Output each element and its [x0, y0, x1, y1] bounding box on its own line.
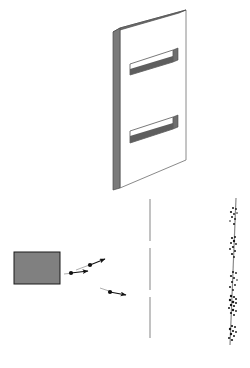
- particle-1-velocity-arrow: [71, 271, 88, 273]
- fringe-2-dot-2: [234, 236, 236, 238]
- fringe-5-dot-9: [231, 339, 233, 341]
- particle-trails: [64, 264, 112, 292]
- fringe-2-dot-3: [233, 240, 235, 242]
- fringe-2-dot-7: [229, 248, 231, 250]
- slit-upper-cap: [173, 48, 178, 62]
- particle-2: [88, 259, 105, 267]
- fringe-5-dot-7: [233, 335, 235, 337]
- fringe-1-dot-3: [230, 211, 232, 213]
- slit-lower-cap: [173, 115, 178, 129]
- particles: [69, 259, 126, 295]
- fringe-2-dot-1: [231, 237, 233, 239]
- fringe-3-dot-6: [231, 281, 233, 283]
- fringe-4-dot-7: [230, 304, 232, 306]
- fringe-4-dot-2: [233, 296, 235, 298]
- fringe-4-dot-11: [235, 310, 237, 312]
- fringe-5: [228, 325, 237, 341]
- fringe-3-dot-2: [235, 272, 237, 274]
- fringe-4-dot-3: [235, 298, 237, 300]
- particle-3: [108, 290, 126, 295]
- fringe-4-dot-4: [229, 299, 231, 301]
- particle-1: [69, 271, 88, 275]
- fringe-1-dot-2: [235, 208, 237, 210]
- fringe-1-dot-9: [233, 223, 235, 225]
- fringe-5-dot-8: [228, 337, 230, 339]
- fringe-4-dot-6: [235, 302, 237, 304]
- fringe-2-dot-4: [230, 242, 232, 244]
- barrier-left-edge: [113, 28, 120, 190]
- fringe-5-dot-3: [229, 328, 231, 330]
- fringe-4-dot-1: [230, 295, 232, 297]
- fringe-5-dot-6: [230, 333, 232, 335]
- fringe-2: [229, 236, 237, 258]
- fringe-4-dot-9: [228, 307, 230, 309]
- fringe-4-dot-8: [233, 305, 235, 307]
- fringe-4-dot-13: [233, 314, 235, 316]
- fringe-2-dot-8: [234, 250, 236, 252]
- particle-3-dot: [108, 290, 112, 294]
- detector-screen: [228, 198, 238, 345]
- fringe-1-dot-1: [232, 207, 234, 209]
- fringe-4-dot-5: [232, 301, 235, 304]
- fringe-1-dot-5: [236, 212, 238, 214]
- fringe-3-dot-4: [233, 277, 235, 279]
- diagram-canvas: [0, 0, 250, 368]
- fringe-4-dot-10: [232, 309, 234, 311]
- fringe-5-dot-4: [232, 330, 234, 332]
- fringe-1-dot-7: [234, 218, 236, 220]
- fringe-3-dot-9: [232, 289, 234, 291]
- fringe-5-dot-1: [231, 325, 233, 327]
- fringe-1-dot-6: [231, 216, 233, 218]
- particle-1-dot: [69, 271, 73, 275]
- double-slit-diagram: [0, 0, 250, 368]
- fringe-3-dot-1: [232, 271, 234, 273]
- fringe-5-dot-2: [234, 326, 236, 328]
- particle-2-velocity-arrow: [90, 259, 105, 265]
- fringe-1-dot-8: [229, 220, 231, 222]
- fringe-3-dot-7: [234, 284, 236, 286]
- particle-source: [14, 252, 60, 284]
- double-slit-barrier: [113, 10, 186, 190]
- fringe-2-dot-6: [232, 246, 234, 248]
- particle-2-dot: [88, 263, 92, 267]
- fringe-1: [229, 207, 238, 225]
- fringe-3-dot-8: [229, 286, 231, 288]
- fringe-3-dot-5: [236, 279, 238, 281]
- fringe-3-dot-3: [230, 275, 232, 277]
- fringe-4-dot-12: [230, 312, 232, 314]
- barrier-face: [120, 10, 186, 188]
- fringe-2-dot-5: [235, 243, 237, 245]
- fringe-1-dot-4: [233, 213, 235, 215]
- particle-3-velocity-arrow: [110, 292, 126, 295]
- fringe-2-dot-10: [233, 256, 235, 258]
- fringe-2-dot-9: [231, 253, 233, 255]
- fringe-5-dot-5: [235, 331, 237, 333]
